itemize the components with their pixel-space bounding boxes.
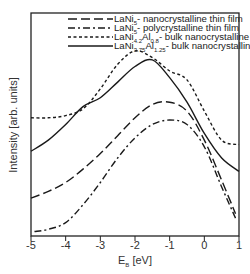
curve-solid	[31, 59, 239, 171]
x-axis-label: EB [eV]	[118, 254, 152, 268]
x-tick-label: -4	[61, 239, 71, 251]
y-axis-label: Intensity [arb. units]	[7, 77, 19, 172]
x-tick-label: 1	[236, 239, 242, 251]
curves	[31, 51, 239, 232]
legend-item: LaNi3.75Al1.25- bulk nanocrystalline	[114, 41, 250, 55]
legend-lines	[68, 19, 113, 46]
curve-dotted	[31, 51, 239, 145]
x-tick-label: -2	[130, 239, 140, 251]
curve-dash-dot	[34, 120, 235, 231]
x-tick-label: -3	[95, 239, 105, 251]
curve-dashed	[31, 102, 236, 214]
x-tick-label: -1	[165, 239, 175, 251]
x-tick-label: 0	[201, 239, 207, 251]
x-tick-label: -5	[26, 239, 36, 251]
